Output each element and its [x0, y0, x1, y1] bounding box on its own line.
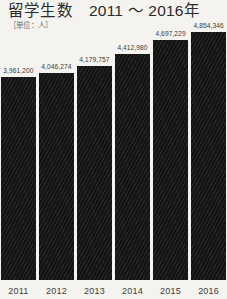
bar[interactable] [153, 40, 188, 280]
bar-group: 4,046,2742012 [39, 73, 74, 280]
x-axis-tick-label: 2011 [8, 285, 28, 297]
bar[interactable] [39, 73, 74, 280]
bar[interactable] [191, 32, 226, 280]
bar-value-label: 4,854,346 [193, 22, 223, 30]
bar-group: 4,179,7572013 [77, 66, 112, 280]
plot-area: 3,961,20020114,046,27420124,179,75720134… [0, 0, 227, 299]
bar-value-label: 3,961,200 [3, 67, 33, 75]
bar[interactable] [1, 77, 36, 280]
x-axis-tick-label: 2015 [160, 285, 181, 297]
bar-value-label: 4,046,274 [41, 63, 71, 71]
bar-value-label: 4,179,757 [79, 56, 109, 64]
bar-group: 4,854,3462016 [191, 32, 226, 280]
x-axis-tick-label: 2016 [198, 285, 219, 297]
bar[interactable] [115, 54, 150, 280]
bar-group: 4,412,9802014 [115, 54, 150, 280]
bar-value-label: 4,697,229 [155, 30, 185, 38]
x-axis-tick-label: 2012 [46, 285, 67, 297]
bar-group: 3,961,2002011 [1, 77, 36, 280]
bar-value-label: 4,412,980 [117, 44, 147, 52]
bar[interactable] [77, 66, 112, 280]
x-axis-tick-label: 2014 [122, 285, 143, 297]
bar-chart: 留学生数 2011 ～ 2016年 ［単位：人］ 3,961,20020114,… [0, 0, 227, 299]
x-axis-tick-label: 2013 [84, 285, 105, 297]
bar-group: 4,697,2292015 [153, 40, 188, 280]
